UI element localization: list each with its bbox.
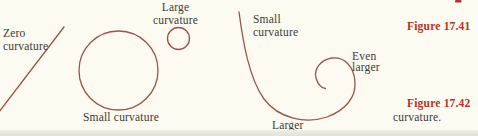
even-larger-label-line1: Even (352, 51, 380, 62)
spiral-small-curvature-label-line2: curvature (253, 26, 298, 39)
figure-17-41-caption: Figure 17.41 (407, 20, 471, 33)
figure-17-42-caption: Figure 17.42 (407, 97, 471, 110)
large-curvature-label-line1: Large (147, 1, 204, 14)
zero-curvature-label-line2: curvature (3, 40, 48, 53)
page-edge-shadow (0, 130, 478, 136)
figure-17-42-caption-continuation: curvature. (393, 111, 441, 124)
cropped-character-fragment (455, 0, 462, 3)
large-curvature-circle (168, 28, 190, 50)
large-curvature-label: Large curvature (147, 1, 204, 26)
small-curvature-circle (79, 31, 158, 110)
spiral-small-curvature-label-line1: Small (253, 13, 298, 26)
zero-curvature-label-line1: Zero (3, 27, 48, 40)
textbook-figure-region: Zero curvature Large curvature Small cur… (0, 0, 478, 136)
spiral-small-curvature-label: Small curvature (253, 13, 298, 38)
even-larger-label: Even larger (352, 51, 380, 72)
large-curvature-label-line2: curvature (147, 14, 204, 27)
even-larger-label-line2: larger (352, 62, 380, 73)
small-curvature-label: Small curvature (81, 111, 161, 124)
zero-curvature-label: Zero curvature (3, 27, 48, 52)
